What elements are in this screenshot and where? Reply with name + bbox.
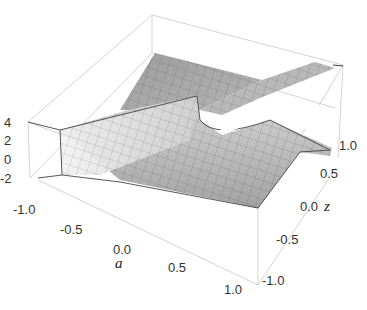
surface-plot: 4 2 0 -2 -1.0 -0.5 0.0 a 0.5 1.0 -1.0 -0… bbox=[0, 0, 367, 310]
z-depth-tick: -0.5 bbox=[276, 232, 298, 247]
z-tick: 4 bbox=[4, 115, 11, 130]
z-depth-tick: -1.0 bbox=[262, 273, 284, 288]
z-depth-tick: 0.5 bbox=[320, 166, 338, 181]
z-depth-tick: 1.0 bbox=[339, 138, 357, 153]
z-tick: -2 bbox=[0, 171, 12, 186]
a-axis-label: a bbox=[115, 255, 123, 271]
a-tick: 0.5 bbox=[168, 260, 186, 275]
z-depth-axis-label: z bbox=[323, 198, 330, 214]
surface bbox=[28, 53, 343, 208]
a-tick: 1.0 bbox=[224, 282, 242, 297]
a-tick: -1.0 bbox=[13, 202, 35, 217]
z-tick: 2 bbox=[4, 133, 11, 148]
z-depth-tick: 0.0 bbox=[300, 199, 318, 214]
a-tick: -0.5 bbox=[60, 222, 82, 237]
a-axis: -1.0 -0.5 0.0 a 0.5 1.0 bbox=[13, 202, 242, 297]
z-axis: 4 2 0 -2 bbox=[0, 115, 12, 186]
z-tick: 0 bbox=[4, 152, 11, 167]
